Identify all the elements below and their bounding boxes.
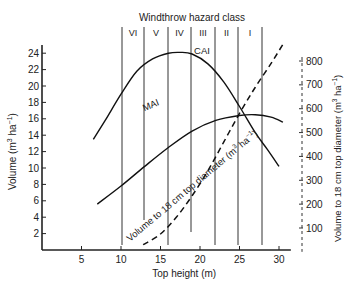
y-axis-title-part: ha	[7, 124, 18, 138]
y-right-tick-label: 100	[306, 223, 323, 234]
y-tick-label: 6	[33, 195, 39, 206]
hazard-class-label: V	[153, 28, 159, 38]
x-tick-label: 20	[194, 254, 206, 265]
hazard-class-label: II	[224, 28, 229, 38]
plot-area: 2468101214161820222451015202530Top heigh…	[6, 12, 343, 279]
y-axis-title-part: −1	[6, 116, 13, 124]
y-right-tick-label: 400	[306, 151, 323, 162]
y-axis-title-part: Volume (m	[7, 142, 18, 190]
label-cai: CAI	[194, 45, 210, 56]
hazard-class-label: III	[199, 28, 207, 38]
y-right-tick-label: 800	[306, 56, 323, 67]
x-tick-label: 10	[115, 254, 127, 265]
y-right-tick-label: 200	[306, 199, 323, 210]
hazard-class-label: IV	[175, 28, 184, 38]
y-axis-right-title: Volume to 18 cm top diameter (m3 ha−1)	[331, 75, 343, 242]
x-tick-label: 30	[273, 254, 285, 265]
chart-title: Windthrow hazard class	[139, 12, 245, 23]
x-axis-title: Top height (m)	[152, 268, 216, 279]
y-tick-label: 20	[28, 81, 40, 92]
y-axis-title-part: )	[7, 113, 18, 116]
hazard-class-label: VI	[129, 28, 138, 38]
y-right-tick-label: 600	[306, 103, 323, 114]
series-line-cai	[93, 52, 279, 166]
y-tick-label: 10	[28, 163, 40, 174]
y-right-tick-label: 500	[306, 127, 323, 138]
x-tick-label: 25	[234, 254, 246, 265]
y-axis-right-title-part: )	[332, 75, 343, 78]
label-volume-part: )	[250, 128, 260, 138]
x-tick-label: 5	[79, 254, 85, 265]
y-axis-right-title-part: ha	[332, 85, 343, 99]
y-tick-label: 12	[28, 146, 40, 157]
y-axis-right-title-part: Volume to 18 cm top diameter (m	[332, 102, 343, 242]
y-tick-label: 4	[33, 212, 39, 223]
y-tick-label: 16	[28, 113, 40, 124]
y-tick-label: 8	[33, 179, 39, 190]
y-tick-label: 14	[28, 130, 40, 141]
y-tick-label: 2	[33, 228, 39, 239]
y-right-tick-label: 700	[306, 79, 323, 90]
y-axis-title: Volume (m3 ha−1)	[6, 113, 18, 190]
chart-canvas: 2468101214161820222451015202530Top heigh…	[0, 0, 350, 286]
hazard-class-label: I	[249, 28, 252, 38]
y-tick-label: 24	[28, 48, 40, 59]
y-tick-label: 18	[28, 97, 40, 108]
y-right-tick-label: 300	[306, 175, 323, 186]
x-tick-label: 15	[155, 254, 167, 265]
y-tick-label: 22	[28, 64, 40, 75]
label-volume-part: Volume to 18 cm top diameter (m	[124, 145, 238, 243]
